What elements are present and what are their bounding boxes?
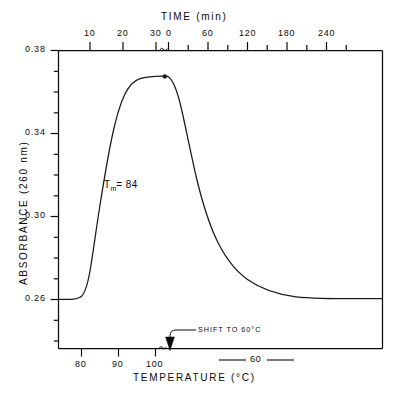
top-tick-label-60: 60	[202, 28, 214, 38]
bottom-tick-label-90: 90	[112, 359, 124, 369]
y-tick-label-026: 0.26	[25, 293, 46, 303]
y-tick-label-034: 0.34	[25, 127, 46, 137]
y-axis-title: ABSORBANCE (260 nm)	[18, 140, 29, 285]
top-tick-label-20: 20	[117, 28, 129, 38]
top-tick-label-0: 0	[166, 28, 172, 38]
bottom-axis-ticks	[82, 349, 156, 357]
top-tick-label-180: 180	[278, 28, 295, 38]
bottom-hold-label-60: 60	[250, 354, 262, 364]
y-axis-ticks	[51, 51, 59, 342]
top-axis-title: TIME (min)	[161, 11, 227, 22]
top-tick-label-120: 120	[239, 28, 256, 38]
melting-temperature-annotation: Tm= 84	[104, 179, 138, 192]
bottom-tick-label-80: 80	[75, 359, 87, 369]
bottom-tick-label-100: 100	[146, 359, 163, 369]
bottom-axis-title: TEMPERATURE (°C)	[133, 372, 256, 383]
shift-annotation-leader	[166, 330, 196, 351]
chart-canvas	[0, 0, 395, 395]
plot-frame	[59, 51, 383, 349]
top-tick-label-240: 240	[318, 28, 335, 38]
top-axis-ticks	[90, 42, 346, 51]
absorbance-melting-curve-figure: 0.38 0.34 0.30 0.26 ABSORBANCE (260 nm) …	[0, 0, 395, 395]
shift-to-60c-annotation: SHIFT TO 60°C	[198, 325, 261, 334]
y-tick-label-038: 0.38	[25, 44, 46, 54]
top-tick-label-30: 30	[150, 28, 162, 38]
top-tick-label-10: 10	[84, 28, 96, 38]
shift-point-marker	[163, 74, 167, 78]
tm-value: = 84	[116, 179, 137, 190]
